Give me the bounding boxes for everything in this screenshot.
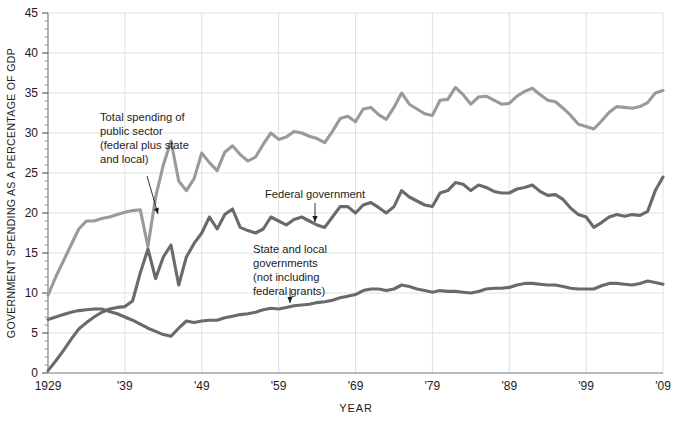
y-tick-label: 45	[25, 6, 39, 20]
y-tick-label: 35	[25, 86, 39, 100]
x-tick-label: '79	[425, 379, 441, 393]
annot-federal: Federal government	[265, 188, 366, 200]
y-tick-label: 40	[25, 46, 39, 60]
y-tick-label: 15	[25, 246, 39, 260]
y-tick-label: 0	[31, 366, 38, 380]
y-tick-label: 5	[31, 326, 38, 340]
x-tick-label: '99	[578, 379, 594, 393]
x-axis-ticks: 1929'39'49'59'69'79'89'99'09	[35, 379, 671, 393]
x-tick-label: '59	[271, 379, 287, 393]
annot-state-local-arrow-head	[287, 297, 292, 303]
government-spending-line-chart: 051015202530354045 1929'39'49'59'69'79'8…	[0, 0, 676, 422]
y-axis-title: GOVERNMENT SPENDING AS A PERCENTAGE OF G…	[5, 48, 17, 338]
annot-federal-arrow-head	[312, 216, 317, 222]
x-tick-label: '09	[655, 379, 671, 393]
x-tick-label: '89	[501, 379, 517, 393]
x-tick-label: '39	[117, 379, 133, 393]
chart-container: 051015202530354045 1929'39'49'59'69'79'8…	[0, 0, 676, 422]
x-tick-label: 1929	[35, 379, 62, 393]
y-tick-label: 20	[25, 206, 39, 220]
y-tick-label: 25	[25, 166, 39, 180]
x-axis-title: YEAR	[339, 402, 373, 414]
x-tick-label: '69	[348, 379, 364, 393]
y-tick-label: 10	[25, 286, 39, 300]
x-tick-label: '49	[194, 379, 210, 393]
y-axis-ticks: 051015202530354045	[25, 6, 48, 380]
y-tick-label: 30	[25, 126, 39, 140]
